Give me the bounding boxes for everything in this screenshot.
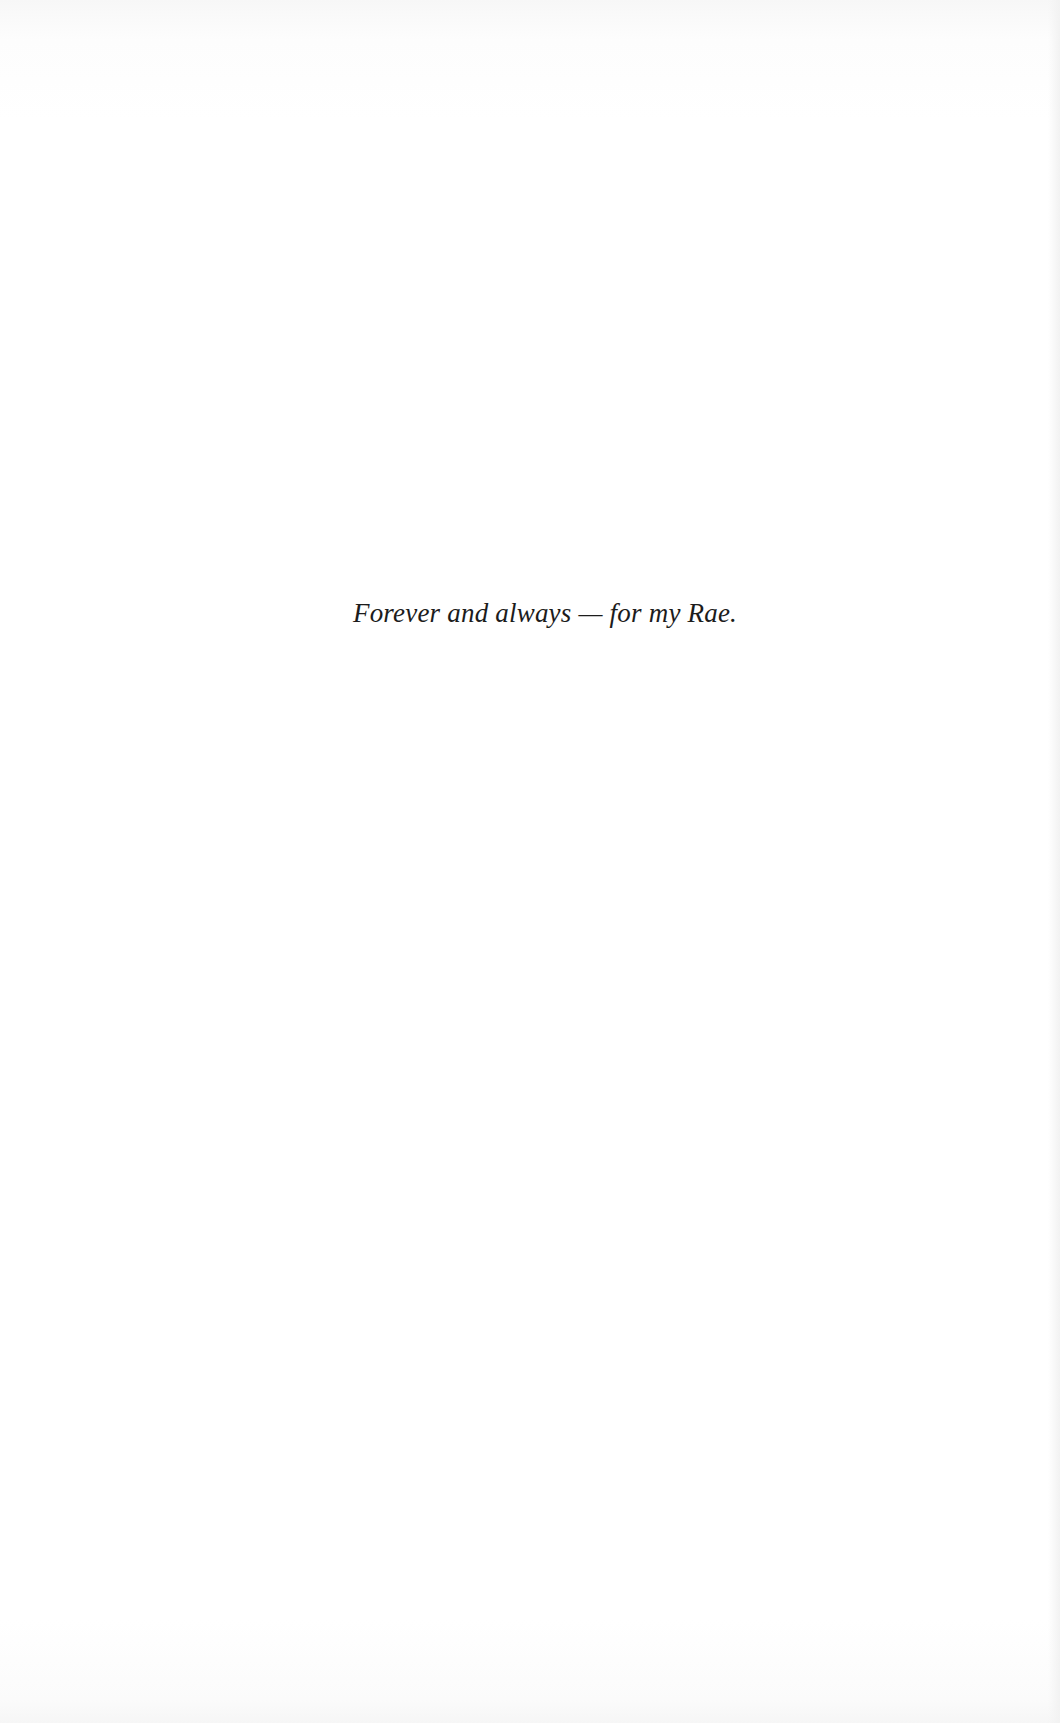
book-page: Forever and always — for my Rae. bbox=[0, 0, 1060, 1723]
page-edge-shadow bbox=[1048, 0, 1060, 1723]
dedication-text: Forever and always — for my Rae. bbox=[0, 595, 1060, 631]
